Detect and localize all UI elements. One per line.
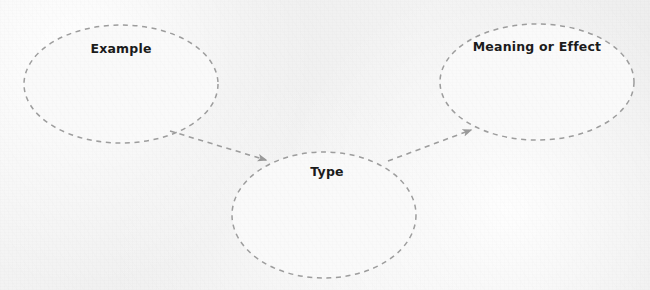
diagram-canvas: Example Type Meaning or Effect bbox=[0, 0, 650, 290]
node-label-example: Example bbox=[90, 41, 151, 56]
node-label-type: Type bbox=[310, 164, 343, 179]
node-label-meaning-or-effect: Meaning or Effect bbox=[473, 39, 602, 54]
edge-type-to-meaning-or-effect-line bbox=[388, 130, 471, 161]
edge-example-to-type[interactable] bbox=[170, 131, 266, 160]
edge-type-to-meaning-or-effect[interactable] bbox=[388, 130, 471, 161]
edge-example-to-type-line bbox=[170, 131, 266, 160]
